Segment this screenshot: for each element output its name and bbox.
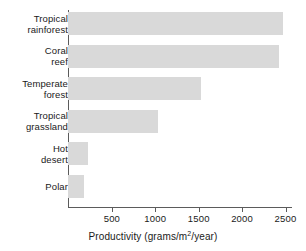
bar-fill	[68, 142, 88, 165]
bar-fill	[68, 45, 279, 68]
x-tick-500	[112, 207, 113, 212]
bar-fill	[68, 77, 201, 100]
category-label-line: Temperate	[0, 78, 68, 89]
category-label-line: Tropical	[0, 110, 68, 121]
category-label-line: rainforest	[0, 24, 68, 35]
x-tick-label-1500: 1500	[179, 213, 219, 224]
x-axis-line	[68, 207, 292, 208]
x-tick-2500	[286, 207, 287, 212]
category-label-line: grassland	[0, 121, 68, 132]
category-label-line: forest	[0, 89, 68, 100]
category-label-line: Hot	[0, 143, 68, 154]
x-tick-label-2000: 2000	[222, 213, 262, 224]
bar-tropical-rainforest	[68, 12, 283, 35]
bar-hot-desert	[68, 142, 88, 165]
category-label-tropical-grassland: Tropicalgrassland	[0, 110, 68, 132]
bar-tropical-grassland	[68, 110, 158, 133]
bar-fill	[68, 175, 84, 198]
x-tick-label-1000: 1000	[135, 213, 175, 224]
x-axis-title: Productivity (grams/m2/year)	[0, 231, 306, 242]
category-label-tropical-rainforest: Tropicalrainforest	[0, 13, 68, 35]
category-label-line: reef	[0, 56, 68, 67]
category-label-temperate-forest: Temperateforest	[0, 78, 68, 100]
bar-coral-reef	[68, 45, 279, 68]
x-axis-title-text: Productivity (grams/m2/year)	[89, 231, 218, 242]
category-label-line: Polar	[0, 181, 68, 192]
bars-group	[68, 12, 286, 207]
bar-fill	[68, 12, 283, 35]
bar-temperate-forest	[68, 77, 201, 100]
category-label-polar: Polar	[0, 181, 68, 192]
x-tick-label-2500: 2500	[266, 213, 306, 224]
category-label-coral-reef: Coralreef	[0, 45, 68, 67]
x-tick-2000	[242, 207, 243, 212]
bar-chart: TropicalrainforestCoralreefTemperatefore…	[0, 0, 306, 251]
x-tick-1500	[199, 207, 200, 212]
x-tick-label-500: 500	[92, 213, 132, 224]
category-label-line: desert	[0, 154, 68, 165]
bar-polar	[68, 175, 84, 198]
x-tick-1000	[155, 207, 156, 212]
category-label-line: Tropical	[0, 13, 68, 24]
category-label-line: Coral	[0, 45, 68, 56]
bar-fill	[68, 110, 158, 133]
category-label-hot-desert: Hotdesert	[0, 143, 68, 165]
